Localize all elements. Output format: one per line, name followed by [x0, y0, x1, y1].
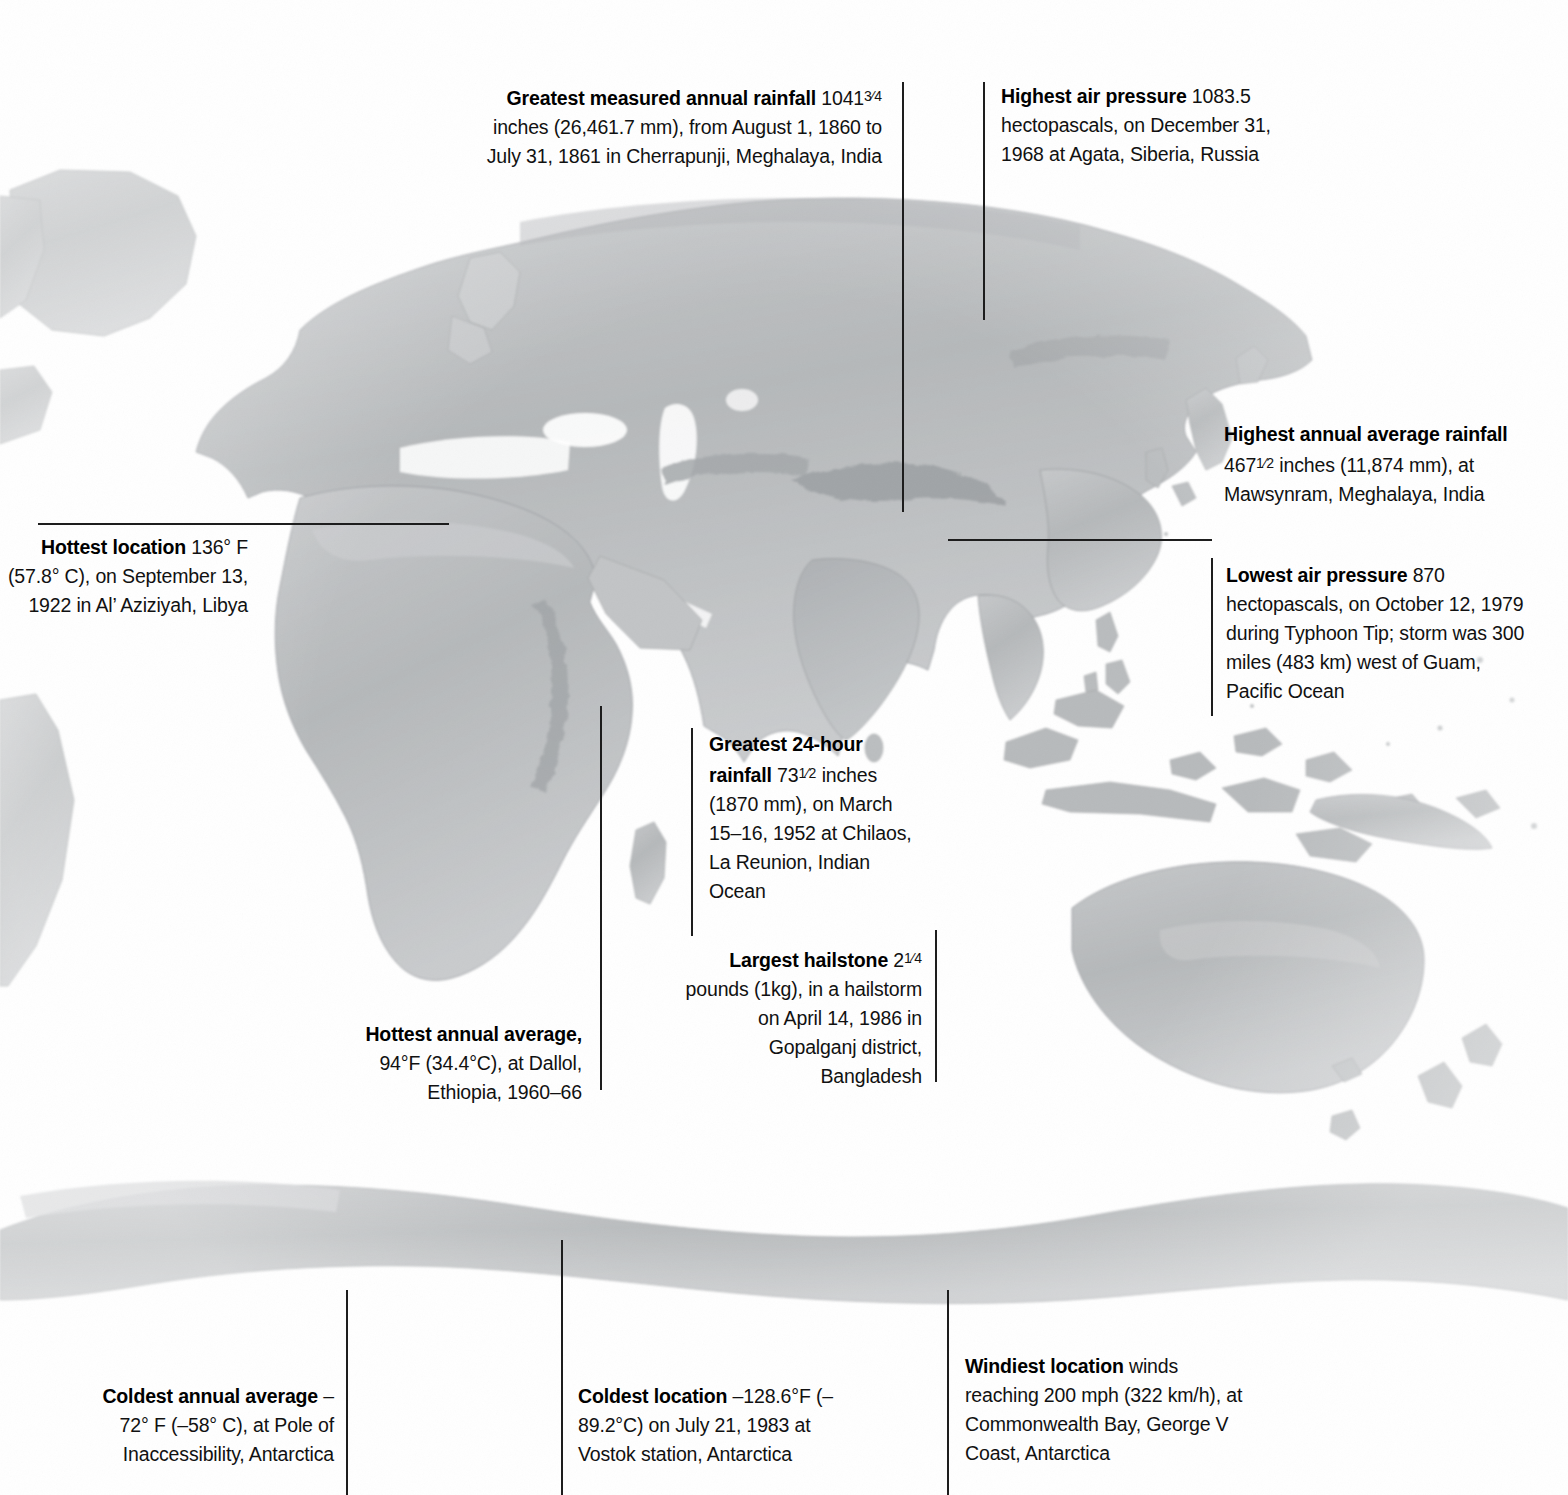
- leader-line-coldest-annual-average: [346, 1290, 348, 1495]
- leader-line-windiest-location: [947, 1290, 949, 1495]
- leader-line-greatest-measured-annual-rainfall: [902, 82, 904, 512]
- leader-line-hottest-annual-average: [600, 706, 602, 1090]
- callout-hottest-annual-average: Hottest annual average, 94°F (34.4°C), a…: [332, 1020, 582, 1107]
- callout-greatest-measured-annual-rainfall-title: Greatest measured annual: [507, 87, 748, 109]
- callout-hottest-location-title: Hottest location: [41, 536, 186, 558]
- leader-line-highest-annual-average-rainfall: [948, 539, 1212, 541]
- callout-hottest-annual-average-title: Hottest annual: [365, 1023, 498, 1045]
- leader-line-highest-air-pressure: [983, 82, 985, 320]
- callout-coldest-annual-average: Coldest annual average –72° F (–58° C), …: [82, 1382, 334, 1469]
- leader-line-hottest-location: [38, 523, 449, 525]
- callout-greatest-24-hour-rainfall-title-cont: rainfall: [709, 764, 772, 786]
- callout-coldest-location: Coldest location –128.6°F (–89.2°C) on J…: [578, 1382, 840, 1469]
- callout-highest-air-pressure: Highest air pressure 1083.5 hectopascals…: [1001, 82, 1301, 169]
- callout-windiest-location-title: Windiest location: [965, 1355, 1124, 1377]
- callout-greatest-measured-annual-rainfall-title-cont: rainfall: [753, 87, 816, 109]
- callout-highest-air-pressure-title: Highest air pressure: [1001, 85, 1187, 107]
- callout-greatest-24-hour-rainfall-title: Greatest 24-hour: [709, 733, 863, 755]
- leader-line-lowest-air-pressure: [1211, 558, 1213, 716]
- callout-largest-hailstone-title: Largest hailstone: [729, 949, 888, 971]
- leader-line-coldest-location: [561, 1240, 563, 1495]
- callout-windiest-location: Windiest location winds reaching 200 mph…: [965, 1352, 1245, 1468]
- callout-coldest-annual-average-title: Coldest annual average: [102, 1385, 318, 1407]
- weather-extremes-map-page: Greatest measured annual rainfall 10413⁄…: [0, 0, 1568, 1495]
- callout-lowest-air-pressure: Lowest air pressure 870 hectopascals, on…: [1226, 561, 1526, 706]
- callout-largest-hailstone: Largest hailstone 21⁄4 pounds (1kg), in …: [672, 944, 922, 1091]
- callout-highest-annual-average-rainfall-title-cont: rainfall: [1445, 423, 1508, 445]
- callout-hottest-annual-average-body: 94°F (34.4°C), at Dallol, Ethiopia, 1960…: [379, 1052, 582, 1103]
- leader-line-largest-hailstone: [935, 930, 937, 1082]
- callout-highest-annual-average-rainfall-title: Highest annual average: [1224, 423, 1440, 445]
- callout-greatest-measured-annual-rainfall: Greatest measured annual rainfall 10413⁄…: [480, 82, 882, 171]
- leader-line-greatest-24-hour-rainfall: [691, 728, 693, 936]
- callout-lowest-air-pressure-title: Lowest air pressure: [1226, 564, 1407, 586]
- callout-highest-annual-average-rainfall: Highest annual average rainfall 4671⁄2 i…: [1224, 420, 1524, 509]
- callout-highest-annual-average-rainfall-body: 4671⁄2 inches (11,874 mm), at Mawsynram,…: [1224, 454, 1484, 505]
- callout-hottest-location: Hottest location 136° F (57.8° C), on Se…: [0, 533, 248, 620]
- callout-coldest-location-title: Coldest location: [578, 1385, 727, 1407]
- callout-greatest-24-hour-rainfall: Greatest 24-hour rainfall 731⁄2 inches (…: [709, 730, 921, 906]
- callout-hottest-annual-average-title-cont: average,: [504, 1023, 582, 1045]
